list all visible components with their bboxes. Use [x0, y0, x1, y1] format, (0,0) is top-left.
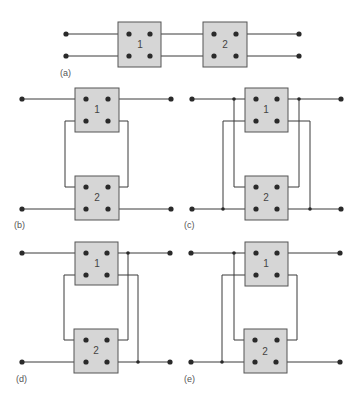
panel-d: 1 2 (d)	[16, 242, 173, 384]
panel-label-e: (e)	[184, 374, 195, 384]
box-label-2: 2	[93, 345, 99, 356]
box-label-2: 2	[94, 192, 100, 203]
terminal-dot	[63, 31, 68, 36]
box-label-1: 1	[263, 258, 269, 269]
panel-label-b: (b)	[14, 220, 25, 230]
panel-e: 1 2 (e)	[184, 242, 343, 384]
panel-label-d: (d)	[16, 374, 27, 384]
box-label-2: 2	[263, 192, 269, 203]
panel-c: 1 2 (c)	[184, 88, 344, 230]
box-label-1: 1	[94, 104, 100, 115]
terminal-dot	[63, 53, 68, 58]
panel-label-c: (c)	[184, 220, 195, 230]
box-label-2: 2	[262, 346, 268, 357]
terminal-dot	[296, 31, 301, 36]
box-label-1: 1	[137, 39, 143, 50]
two-port-diagram: 1 2 (a) 1 2 (b)	[0, 0, 363, 401]
box-label-1: 1	[263, 104, 269, 115]
terminal-dot	[296, 53, 301, 58]
box-label-1: 1	[94, 258, 100, 269]
box-label-2: 2	[222, 39, 228, 50]
panel-b: 1 2 (b)	[14, 88, 174, 230]
panel-a: 1 2 (a)	[60, 22, 302, 78]
panel-label-a: (a)	[60, 68, 71, 78]
